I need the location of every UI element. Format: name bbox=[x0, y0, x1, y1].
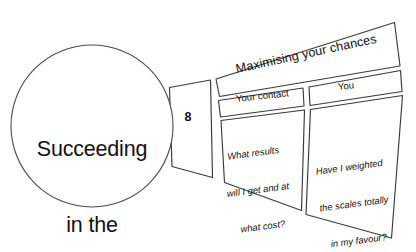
chapter-wedge-shape[interactable] bbox=[170, 80, 213, 178]
col1-body-line-1: What results bbox=[211, 142, 296, 165]
col1-body-label: What results will I get and at what cost… bbox=[207, 117, 308, 252]
circle-title-line-1: Succeeding bbox=[12, 137, 172, 162]
col1-body-line-2: will I get and at bbox=[216, 179, 301, 202]
chapter-number: 8 bbox=[171, 110, 205, 124]
col1-body-line-3: what cost? bbox=[220, 216, 305, 239]
col2-body-line-2: the scales totally bbox=[308, 192, 401, 216]
col2-header-label: You bbox=[337, 80, 354, 92]
col2-body-label: Have I weighted the scales totally in my… bbox=[299, 131, 408, 252]
fan-diagram: Succeeding in the ‘sales zone’ 8 Maximis… bbox=[0, 0, 416, 252]
circle-title: Succeeding in the ‘sales zone’ bbox=[12, 86, 172, 252]
col2-body-line-1: Have I weighted bbox=[303, 155, 396, 179]
circle-title-line-2: in the bbox=[12, 213, 172, 238]
col2-body-line-3: in my favour? bbox=[312, 229, 405, 252]
